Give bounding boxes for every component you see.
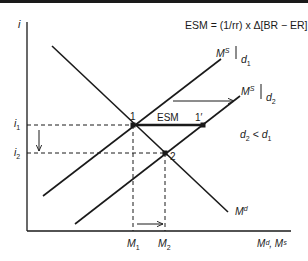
point-1 (131, 123, 136, 128)
m2-label: M2 (158, 237, 171, 251)
point-2 (163, 151, 168, 156)
esm-label: ESM (157, 112, 179, 123)
y-axis-label: i (18, 18, 21, 30)
x-axis-label: Mᵈ, Mˢ (257, 238, 287, 249)
point-1-prime (201, 123, 206, 128)
ms-d2-label: MS (241, 85, 255, 97)
equation-label: ESM = (1/rr) x Δ[BR − ER] (185, 19, 308, 31)
ms-d1-label: MS (216, 47, 230, 59)
i2-label: i2 (14, 146, 20, 160)
condition-label: d2 < d1 (240, 128, 272, 142)
m1-label: M1 (127, 237, 140, 251)
ms-d1-cond: d1 (241, 53, 251, 67)
point-1-prime-label: 1′ (195, 112, 203, 123)
point-2-label: 2 (170, 151, 176, 162)
point-1-label: 1 (130, 111, 136, 122)
ms-d2-cond: d2 (266, 91, 276, 105)
md-curve (52, 46, 228, 212)
money-supply-diagram: ESM = (1/rr) x Δ[BR − ER] i i1 i2 M1 M2 … (0, 0, 308, 261)
i1-label: i1 (14, 117, 20, 131)
md-label: Md (235, 205, 249, 217)
